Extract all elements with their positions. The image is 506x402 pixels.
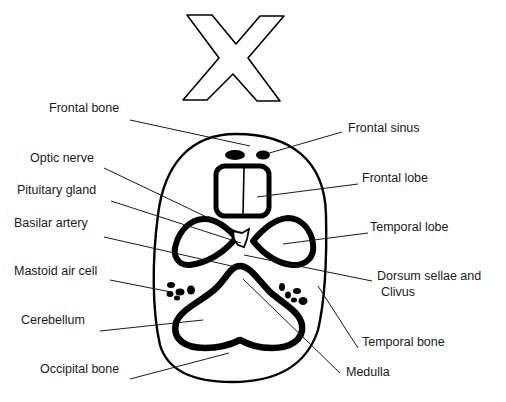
label-temporal-bone: Temporal bone	[362, 335, 445, 350]
label-mastoid-air-cell: Mastoid air cell	[14, 264, 97, 279]
label-medulla: Medulla	[346, 365, 390, 380]
label-frontal-lobe: Frontal lobe	[362, 171, 428, 186]
label-dorsum-sellae: Dorsum sellae and	[377, 269, 481, 284]
label-pituitary-gland: Pituitary gland	[17, 183, 96, 198]
label-frontal-bone: Frontal bone	[49, 101, 119, 116]
anatomy-diagram: Frontal bone Optic nerve Pituitary gland…	[0, 0, 506, 402]
label-basilar-artery: Basilar artery	[14, 216, 88, 231]
falx-line	[243, 168, 244, 214]
leader-temporal-bone	[318, 286, 358, 348]
label-cerebellum: Cerebellum	[21, 313, 85, 328]
label-optic-nerve: Optic nerve	[30, 151, 94, 166]
label-occipital-bone: Occipital bone	[40, 362, 119, 377]
label-frontal-sinus: Frontal sinus	[348, 121, 420, 136]
frontal-sinus-right	[256, 151, 270, 160]
x-mark	[183, 15, 284, 101]
label-clivus: Clivus	[381, 285, 415, 300]
frontal-sinus-left	[225, 150, 245, 160]
label-temporal-lobe: Temporal lobe	[370, 220, 449, 235]
